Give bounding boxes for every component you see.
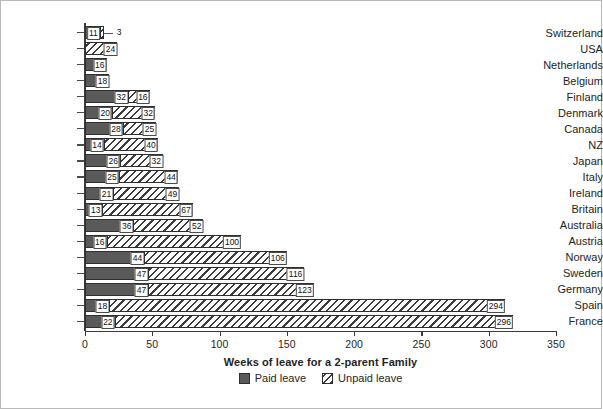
legend-label-paid: Paid leave: [255, 372, 306, 384]
y-tick: [77, 32, 84, 33]
category-label: Germany: [525, 282, 603, 296]
paid-value-label: 18: [96, 300, 109, 313]
paid-value-label: 47: [135, 268, 148, 281]
stacked-bar: 3216: [85, 90, 150, 104]
bar-row: Ireland2149: [1, 187, 603, 201]
category-label: Britain: [525, 202, 603, 216]
paid-swatch-icon: [239, 373, 250, 384]
x-tick-label: 0: [82, 338, 88, 350]
unpaid-value-label: 294: [487, 300, 505, 313]
bar-row: Japan2632: [1, 154, 603, 168]
stacked-bar: 18: [85, 74, 109, 88]
legend-label-unpaid: Unpaid leave: [338, 372, 402, 384]
bar-row: Belgium18: [1, 74, 603, 88]
y-tick: [77, 225, 84, 226]
category-label: NZ: [525, 138, 603, 152]
unpaid-value-label: 44: [164, 171, 177, 184]
paid-value-label: 26: [107, 155, 120, 168]
x-tick: [489, 331, 490, 336]
y-tick: [77, 193, 84, 194]
category-label: Sweden: [525, 266, 603, 280]
stacked-bar: 24: [85, 42, 117, 56]
unpaid-value-label: 106: [269, 252, 287, 265]
bar-row: Norway44106: [1, 251, 603, 265]
x-tick-label: 200: [345, 338, 363, 350]
unpaid-value-label: 24: [104, 43, 117, 56]
category-label: Norway: [525, 250, 603, 264]
paid-value-label: 16: [93, 59, 106, 72]
legend-item-unpaid: Unpaid leave: [322, 372, 402, 384]
paid-value-label: 14: [90, 139, 103, 152]
bar-row: Austria16100: [1, 235, 603, 249]
bar-row: Switzerland113: [1, 26, 603, 40]
paid-value-label: 22: [101, 316, 114, 329]
stacked-bar: 16: [85, 58, 107, 72]
y-tick: [77, 128, 84, 129]
y-tick: [77, 257, 84, 258]
y-tick: [77, 289, 84, 290]
x-tick: [85, 331, 86, 336]
x-tick: [556, 331, 557, 336]
x-tick-label: 250: [413, 338, 431, 350]
stacked-bar: 2544: [85, 170, 178, 184]
bar-row: Italy2544: [1, 170, 603, 184]
y-tick: [77, 273, 84, 274]
x-axis-title: Weeks of leave for a 2-parent Family: [85, 356, 556, 368]
paid-value-label: 32: [115, 91, 128, 104]
bar-row: USA24: [1, 42, 603, 56]
paid-value-label: 28: [109, 123, 122, 136]
category-label: USA: [525, 42, 603, 56]
unpaid-value-label: 25: [143, 123, 156, 136]
unpaid-value-label: 52: [190, 220, 203, 233]
stacked-bar: 1367: [85, 203, 193, 217]
y-tick: [77, 64, 84, 65]
bar-row: France22296: [1, 315, 603, 329]
paid-value-label: 11: [87, 27, 100, 40]
x-tick-label: 100: [211, 338, 229, 350]
stacked-bar: 47116: [85, 267, 304, 281]
x-tick: [152, 331, 153, 336]
unpaid-value-label: 67: [179, 204, 192, 217]
x-tick-label: 350: [547, 338, 565, 350]
stacked-bar: 47123: [85, 283, 314, 297]
paid-value-label: 20: [98, 107, 111, 120]
legend-item-paid: Paid leave: [239, 372, 306, 384]
unpaid-value-label: 32: [150, 155, 163, 168]
y-tick: [77, 112, 84, 113]
paid-value-label: 25: [105, 171, 118, 184]
unpaid-value-label: 123: [296, 284, 314, 297]
unpaid-value-label: 49: [166, 188, 179, 201]
unpaid-leave-segment: [144, 251, 287, 264]
y-tick: [77, 209, 84, 210]
category-label: Austria: [525, 234, 603, 248]
unpaid-leave-segment: [109, 299, 505, 312]
bar-row: Netherlands16: [1, 58, 603, 72]
bar-row: Germany47123: [1, 283, 603, 297]
unpaid-leave-segment: [107, 235, 242, 248]
unpaid-value-label: 100: [223, 236, 241, 249]
x-tick: [287, 331, 288, 336]
bar-row: Britain1367: [1, 203, 603, 217]
paid-value-label: 18: [96, 75, 109, 88]
unpaid-value-label: 32: [142, 107, 155, 120]
unpaid-value-label: 296: [495, 316, 513, 329]
stacked-bar: 16100: [85, 235, 241, 249]
bar-row: Canada2825: [1, 122, 603, 136]
y-tick: [77, 96, 84, 97]
stacked-bar: 2149: [85, 187, 179, 201]
category-label: Denmark: [525, 106, 603, 120]
x-tick: [354, 331, 355, 336]
stacked-bar: 44106: [85, 251, 287, 265]
category-label: Spain: [525, 298, 603, 312]
y-tick: [77, 305, 84, 306]
category-label: Japan: [525, 154, 603, 168]
bar-row: Spain18294: [1, 299, 603, 313]
y-tick: [77, 321, 84, 322]
bar-row: NZ1440: [1, 138, 603, 152]
unpaid-leave-segment: [148, 267, 304, 280]
bar-row: Sweden47116: [1, 267, 603, 281]
annotation-leader-line: [104, 33, 113, 34]
paid-value-label: 16: [93, 236, 106, 249]
stacked-bar: 2032: [85, 106, 155, 120]
